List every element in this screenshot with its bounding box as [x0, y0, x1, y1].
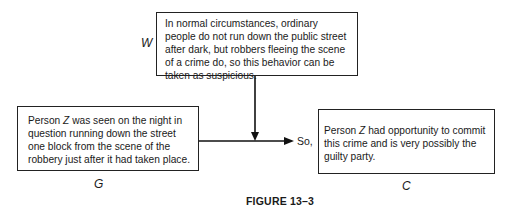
grounds-text-start: Person: [28, 115, 63, 126]
down-arrowhead-icon: [251, 132, 259, 141]
warrant-text: In normal circumstances, ordinary people…: [165, 18, 346, 81]
grounds-label: G: [94, 177, 103, 191]
claim-label: C: [402, 179, 411, 193]
warrant-label: W: [141, 36, 152, 50]
claim-text-start: Person: [324, 125, 359, 136]
warrant-box: In normal circumstances, ordinary people…: [156, 12, 358, 76]
connector-so: So,: [297, 135, 313, 147]
grounds-box: Person Z was seen on the night in questi…: [17, 106, 199, 171]
figure-caption: FIGURE 13–3: [246, 195, 314, 207]
right-arrowhead-icon: [284, 137, 294, 145]
claim-box: Person Z had opportunity to commit this …: [318, 109, 495, 174]
